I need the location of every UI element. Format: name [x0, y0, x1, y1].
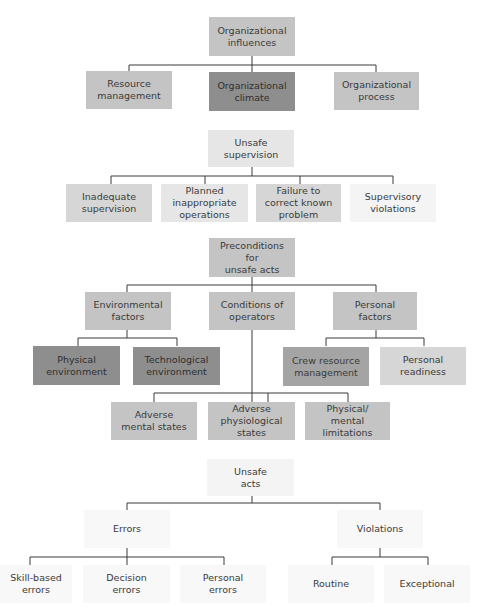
node-technological-environment: Technological environment	[133, 347, 220, 385]
node-errors: Errors	[84, 510, 170, 548]
node-personal-readiness: Personal readiness	[380, 347, 466, 385]
node-decision-errors: Decision errors	[83, 565, 170, 603]
node-unsafe-acts: Unsafe acts	[207, 459, 294, 496]
node-routine: Routine	[288, 565, 374, 603]
node-adverse-physiological-states: Adverse physiological states	[208, 402, 295, 440]
node-inadequate-supervision: Inadequate supervision	[66, 184, 152, 222]
hfacs-diagram: Organizational influences Resource manag…	[0, 0, 490, 616]
node-skill-based-errors: Skill-based errors	[0, 565, 72, 603]
node-preconditions-for-unsafe-acts: Preconditions for unsafe acts	[209, 238, 295, 277]
node-physical-environment: Physical environment	[33, 346, 120, 385]
node-personal-errors: Personal errors	[180, 565, 266, 603]
node-conditions-of-operators: Conditions of operators	[209, 292, 295, 330]
node-exceptional: Exceptional	[384, 565, 470, 603]
node-organizational-climate: Organizational climate	[209, 72, 295, 111]
node-supervisory-violations: Supervisory violations	[350, 184, 436, 222]
node-planned-inappropriate-operations: Planned inappropriate operations	[161, 184, 248, 222]
node-resource-management: Resource management	[86, 71, 172, 109]
node-adverse-mental-states: Adverse mental states	[111, 402, 197, 440]
node-organizational-process: Organizational process	[334, 72, 419, 110]
node-personal-factors: Personal factors	[333, 292, 417, 330]
node-environmental-factors: Environmental factors	[85, 292, 171, 330]
node-violations: Violations	[337, 510, 423, 548]
node-physical-mental-limitations: Physical/ mental limitations	[305, 402, 390, 440]
node-organizational-influences: Organizational influences	[209, 17, 295, 56]
node-failure-to-correct-known-problem: Failure to correct known problem	[256, 184, 341, 222]
node-crew-resource-management: Crew resource management	[283, 347, 369, 386]
node-unsafe-supervision: Unsafe supervision	[208, 130, 294, 167]
